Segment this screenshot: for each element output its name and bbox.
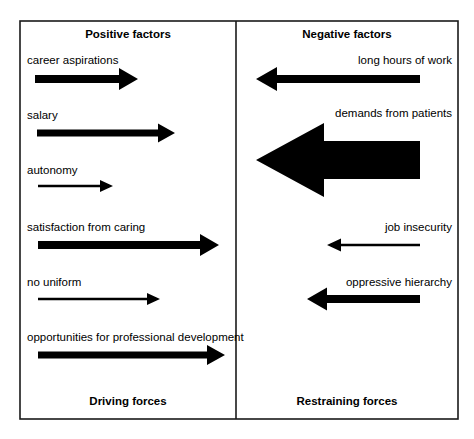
force-label: autonomy: [27, 164, 78, 176]
force-label: job insecurity: [384, 221, 452, 233]
force-label: career aspirations: [27, 54, 119, 66]
force-label: salary: [27, 109, 58, 121]
force-field-diagram: Positive factors Negative factors Drivin…: [0, 0, 474, 439]
force-label: no uniform: [27, 276, 81, 288]
force-label: opportunities for professional developme…: [27, 331, 245, 343]
force-label: demands from patients: [335, 107, 452, 119]
column-footing-positive: Driving forces: [89, 395, 166, 407]
column-heading-negative: Negative factors: [302, 28, 391, 40]
force-label: oppressive hierarchy: [346, 276, 452, 288]
column-heading-positive: Positive factors: [85, 28, 171, 40]
force-label: long hours of work: [358, 54, 452, 66]
column-footing-negative: Restraining forces: [297, 395, 398, 407]
force-label: satisfaction from caring: [27, 221, 145, 233]
